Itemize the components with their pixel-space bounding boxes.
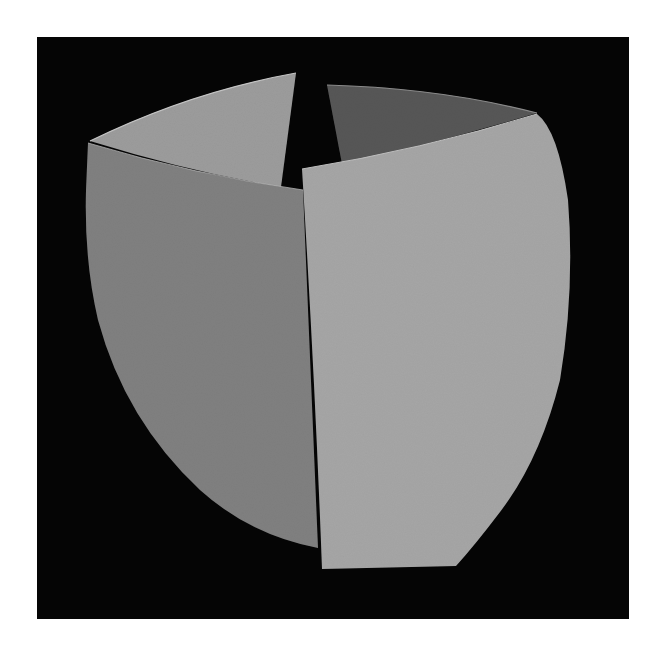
front-left-panel	[86, 143, 318, 548]
front-right-panel	[302, 114, 570, 569]
vessel-artwork	[0, 0, 664, 652]
